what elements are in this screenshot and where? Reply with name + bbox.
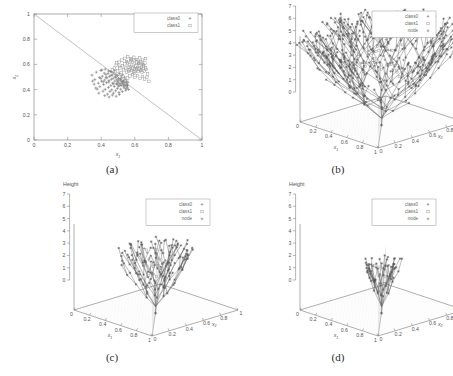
scatter-plot-a: 00.20.40.60.8100.20.40.60.81x1x2class0cl…: [6, 4, 216, 159]
star-marker: [348, 80, 351, 83]
caption-d: (d): [318, 351, 358, 363]
z-tick-label: 7: [289, 3, 292, 9]
x-axis-label: x1: [333, 332, 339, 340]
x-tick-label: 1: [148, 337, 151, 343]
star-marker: [180, 244, 183, 247]
z-tick-label: 3: [289, 52, 292, 58]
y-tick-label: 1: [27, 11, 30, 17]
star-marker: [302, 30, 305, 33]
x-tick-label: 1: [374, 337, 377, 343]
square-marker: [144, 57, 147, 60]
star-marker: [306, 45, 309, 48]
y-tick-label: 0.6: [203, 320, 210, 326]
x-tick-label: 0.2: [309, 128, 316, 134]
star-marker: [442, 17, 445, 20]
series-class0: [90, 68, 130, 99]
z-ticks: 01234567: [289, 3, 296, 95]
star-marker: [321, 21, 324, 24]
star-marker: [375, 262, 378, 265]
plus-marker: [402, 59, 405, 62]
star-marker: [347, 18, 350, 20]
plus-marker: [91, 80, 94, 83]
y-tick-label: 0.4: [23, 87, 30, 93]
z-ticks: 01234567: [289, 191, 296, 283]
square-marker: [136, 74, 139, 77]
tree-edge: [127, 275, 136, 284]
z-tick-label: 4: [63, 228, 66, 234]
star-marker: [399, 257, 402, 260]
x-tick-label: 0.4: [325, 133, 332, 139]
star-marker: [371, 257, 374, 260]
plus-marker: [105, 81, 108, 84]
plus-marker: [103, 94, 106, 97]
star-marker: [408, 102, 411, 105]
x-tick-label: 0.6: [341, 327, 348, 333]
star-marker: [152, 261, 155, 264]
x-tick-label: 0.8: [130, 332, 137, 338]
plus-marker: [118, 93, 121, 96]
plus-marker: [110, 88, 113, 91]
star-marker: [364, 9, 367, 12]
star-marker: [149, 247, 152, 250]
z-tick-label: 1: [289, 77, 292, 83]
star-marker: [336, 51, 339, 54]
y-tick-label: 0.2: [23, 112, 30, 118]
star-marker: [339, 12, 342, 15]
z-tick-label: 6: [289, 15, 292, 21]
star-marker: [131, 258, 134, 261]
tree-edge: [332, 33, 337, 49]
y-tick-label: 0.2: [395, 331, 402, 337]
x-tick-label: 0.2: [309, 316, 316, 322]
plus-marker: [115, 95, 118, 98]
legend-label: class1: [179, 209, 192, 214]
z-tick-label: 5: [289, 28, 292, 34]
plus-marker: [101, 75, 104, 78]
plus-marker: [93, 78, 96, 81]
plus-marker: [107, 69, 110, 72]
star-marker: [331, 46, 334, 49]
star-marker: [387, 256, 390, 259]
star-marker: [427, 29, 430, 32]
star-marker: [150, 260, 153, 263]
star-marker: [364, 257, 367, 260]
x-axis-label: x1: [115, 151, 121, 159]
x-tick-label: 0.8: [165, 142, 172, 148]
z-tick-label: 3: [289, 240, 292, 246]
plus-marker: [104, 88, 107, 91]
y-tick-label: 0.6: [429, 132, 436, 138]
legend-label: node: [408, 28, 419, 33]
star-marker: [327, 53, 330, 56]
x-axis-label: x1: [333, 144, 339, 152]
tree-edge: [161, 250, 162, 264]
star-marker: [139, 252, 142, 255]
star-marker: [361, 20, 364, 22]
panel-a: 00.20.40.60.8100.20.40.60.81x1x2class0cl…: [6, 4, 216, 159]
base-plane: [300, 284, 453, 336]
tree-edge: [156, 241, 160, 253]
star-marker: [351, 61, 354, 64]
y-tick-label: 0.2: [395, 143, 402, 149]
y-tick-label: 0.6: [23, 61, 30, 67]
star-marker: [334, 17, 337, 20]
star-marker: [367, 85, 370, 88]
plus-marker: [389, 70, 392, 73]
star-marker: [325, 78, 328, 81]
y-tick-label: 0.4: [412, 326, 419, 332]
star-marker: [360, 12, 363, 15]
star-marker: [353, 92, 356, 95]
plus-marker: [95, 71, 98, 74]
star-marker: [446, 53, 449, 56]
z-tick-label: 6: [63, 203, 66, 209]
y-tick-label: 0: [154, 336, 157, 342]
y-tick-label: 0.8: [23, 36, 30, 42]
star-marker: [138, 246, 141, 249]
tree-edge: [421, 36, 424, 50]
star-marker: [305, 35, 308, 38]
square-marker: [135, 65, 138, 68]
star-marker: [330, 28, 333, 31]
x-tick-label: 0: [70, 311, 73, 317]
y-tick-label: 0: [380, 336, 383, 342]
z-tick-label: 5: [289, 216, 292, 222]
y-axis-label: x2: [11, 75, 19, 81]
star-marker: [343, 43, 346, 46]
